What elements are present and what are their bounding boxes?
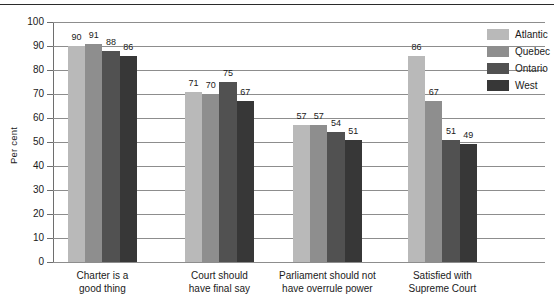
bar-ontario-4[interactable]: 51 bbox=[442, 140, 459, 262]
bar-value-label: 51 bbox=[348, 126, 358, 136]
bar-value-label: 91 bbox=[89, 30, 99, 40]
bar-ontario-1[interactable]: 88 bbox=[102, 51, 119, 262]
bar-quebec-3[interactable]: 57 bbox=[310, 125, 327, 262]
bar-atlantic-1[interactable]: 90 bbox=[68, 46, 85, 262]
y-axis-title: Per cent bbox=[8, 111, 19, 181]
category-label-2: Court should have final say bbox=[159, 269, 279, 295]
bar-group-4: 86675149 bbox=[408, 22, 477, 262]
legend-item-west[interactable]: West bbox=[487, 77, 554, 94]
legend-item-atlantic[interactable]: Atlantic bbox=[487, 26, 554, 43]
bar-ontario-2[interactable]: 75 bbox=[219, 82, 236, 262]
legend-label-quebec: Quebec bbox=[515, 46, 550, 57]
bar-atlantic-4[interactable]: 86 bbox=[408, 56, 425, 262]
legend-label-west: West bbox=[515, 80, 538, 91]
bar-value-label: 86 bbox=[123, 42, 133, 52]
y-tick-label-10: 10 bbox=[20, 232, 44, 243]
bar-quebec-1[interactable]: 91 bbox=[85, 44, 102, 262]
bar-value-label: 57 bbox=[297, 111, 307, 121]
bar-chart-figure: Per cent 0102030405060708090100 90918886… bbox=[0, 0, 554, 299]
bar-value-label: 70 bbox=[206, 80, 216, 90]
bar-group-1: 90918886 bbox=[68, 22, 137, 262]
y-tick-label-90: 90 bbox=[20, 40, 44, 51]
bar-value-label: 75 bbox=[223, 68, 233, 78]
plot-area: 90918886717075675757545186675149 bbox=[53, 22, 545, 262]
bar-ontario-3[interactable]: 54 bbox=[327, 132, 344, 262]
bar-west-2[interactable]: 67 bbox=[237, 101, 254, 262]
legend-item-ontario[interactable]: Ontario bbox=[487, 60, 554, 77]
legend-swatch-ontario bbox=[487, 63, 509, 74]
bar-quebec-2[interactable]: 70 bbox=[202, 94, 219, 262]
y-tick-label-70: 70 bbox=[20, 88, 44, 99]
y-tick-label-50: 50 bbox=[20, 136, 44, 147]
bar-west-3[interactable]: 51 bbox=[345, 140, 362, 262]
y-tick-label-100: 100 bbox=[20, 16, 44, 27]
bar-value-label: 51 bbox=[446, 126, 456, 136]
y-tick-label-30: 30 bbox=[20, 184, 44, 195]
bar-value-label: 90 bbox=[72, 32, 82, 42]
bar-value-label: 67 bbox=[429, 87, 439, 97]
bar-group-2: 71707567 bbox=[185, 22, 254, 262]
legend-item-quebec[interactable]: Quebec bbox=[487, 43, 554, 60]
bar-atlantic-2[interactable]: 71 bbox=[185, 92, 202, 262]
y-tick-label-80: 80 bbox=[20, 64, 44, 75]
bar-value-label: 71 bbox=[189, 78, 199, 88]
bar-quebec-4[interactable]: 67 bbox=[425, 101, 442, 262]
bar-west-1[interactable]: 86 bbox=[120, 56, 137, 262]
legend-swatch-west bbox=[487, 80, 509, 91]
gridline-0 bbox=[53, 262, 545, 263]
bar-value-label: 49 bbox=[463, 130, 473, 140]
chart-legend: AtlanticQuebecOntarioWest bbox=[487, 26, 554, 94]
y-tick-label-0: 0 bbox=[20, 256, 44, 267]
bar-value-label: 86 bbox=[412, 42, 422, 52]
bar-west-4[interactable]: 49 bbox=[460, 144, 477, 262]
bar-value-label: 54 bbox=[331, 118, 341, 128]
bar-value-label: 57 bbox=[314, 111, 324, 121]
y-tick-label-60: 60 bbox=[20, 112, 44, 123]
top-divider-rule bbox=[0, 4, 554, 5]
bar-value-label: 88 bbox=[106, 37, 116, 47]
legend-swatch-atlantic bbox=[487, 29, 509, 40]
legend-swatch-quebec bbox=[487, 46, 509, 57]
bar-value-label: 67 bbox=[240, 87, 250, 97]
bar-group-3: 57575451 bbox=[293, 22, 362, 262]
y-tick-label-40: 40 bbox=[20, 160, 44, 171]
category-label-1: Charter is a good thing bbox=[42, 269, 162, 295]
category-label-4: Satisfied with Supreme Court bbox=[382, 269, 502, 295]
legend-label-ontario: Ontario bbox=[515, 63, 548, 74]
bar-atlantic-3[interactable]: 57 bbox=[293, 125, 310, 262]
y-tick-label-20: 20 bbox=[20, 208, 44, 219]
category-label-3: Parliament should not have overrule powe… bbox=[267, 269, 387, 295]
legend-label-atlantic: Atlantic bbox=[515, 29, 548, 40]
